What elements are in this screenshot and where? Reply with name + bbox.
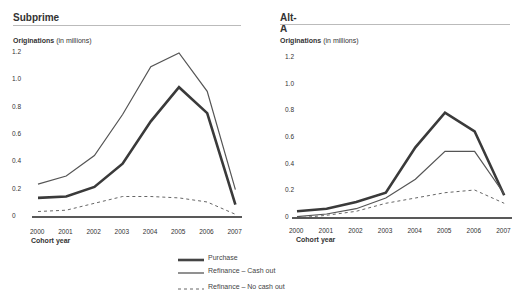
series-line-refinance-cash-out (38, 53, 235, 190)
subprime-plot (32, 53, 242, 217)
series-line-purchase (38, 87, 235, 205)
series-line-refinance-no-cash-out (38, 197, 235, 215)
series-line-refinance-cash-out (297, 151, 504, 216)
series-line-purchase (297, 113, 504, 212)
alt-a-plot (292, 113, 512, 218)
thick-line-swatch-icon (178, 258, 204, 262)
thin-line-swatch-icon (178, 271, 204, 275)
plot-area (0, 0, 519, 296)
legend-item-refinance-cash-out: Refinance – Cash out (178, 267, 378, 277)
legend-item-refinance-no-cash-out: Refinance – No cash out (178, 283, 378, 293)
dashed-line-swatch-icon (178, 287, 204, 291)
legend-item-purchase: Purchase (178, 254, 378, 264)
